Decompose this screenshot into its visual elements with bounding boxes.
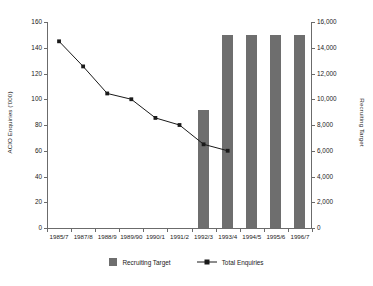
line-marker	[226, 149, 230, 153]
y-axis-left-tick-label: 0	[38, 225, 42, 231]
x-axis-tick	[71, 229, 72, 232]
line-path	[59, 41, 228, 150]
x-axis-tick	[288, 229, 289, 232]
line-marker	[129, 97, 133, 101]
line-series-total-enquiries	[47, 22, 312, 229]
x-axis-tick	[312, 229, 313, 232]
legend-item-total-enquiries: Total Enquiries	[197, 258, 264, 266]
y-axis-right-title: Recruiting Target	[356, 62, 368, 182]
y-axis-left-tick-label: 80	[35, 122, 42, 128]
x-axis-category-label: 1991/2	[170, 234, 189, 240]
y-axis-left-tick-label: 20	[35, 199, 42, 205]
y-axis-right-tick	[312, 48, 315, 49]
x-axis-category-label: 1992/3	[194, 234, 213, 240]
x-axis-tick	[216, 229, 217, 232]
y-axis-right-tick-label: 14,000	[317, 45, 337, 51]
y-axis-left-tick-label: 120	[31, 70, 42, 76]
x-axis-category-label: 1993/4	[218, 234, 237, 240]
line-marker	[202, 142, 206, 146]
legend-item-recruiting-target: Recruiting Target	[109, 258, 170, 266]
x-axis-tick	[95, 229, 96, 232]
x-axis-category-label: 1988/9	[98, 234, 117, 240]
line-markers	[57, 39, 229, 152]
chart-legend: Recruiting Target Total Enquiries	[0, 258, 373, 266]
chart-container: ACIO Enquiries ('000) Recruiting Target …	[0, 0, 373, 286]
y-axis-left-tick-label: 140	[31, 45, 42, 51]
y-axis-right-tick-label: 12,000	[317, 70, 337, 76]
y-axis-right-title-text: Recruiting Target	[359, 98, 366, 146]
y-axis-right-tick-label: 8,000	[317, 122, 333, 128]
y-axis-left-tick-label: 100	[31, 96, 42, 102]
x-axis-tick	[119, 229, 120, 232]
y-axis-right-tick	[312, 74, 315, 75]
y-axis-right-tick	[312, 125, 315, 126]
x-axis-tick	[264, 229, 265, 232]
y-axis-right-tick-label: 2,000	[317, 199, 333, 205]
x-axis-category-label: 1985/7	[50, 234, 69, 240]
x-axis-tick	[240, 229, 241, 232]
line-marker	[154, 116, 158, 120]
x-axis-tick	[167, 229, 168, 232]
y-axis-right-tick-label: 6,000	[317, 148, 333, 154]
legend-swatch-icon	[109, 258, 117, 266]
y-axis-right-tick	[312, 22, 315, 23]
x-axis-category-label: 1989/90	[120, 234, 142, 240]
line-marker	[178, 123, 182, 127]
x-axis-category-label: 1995/6	[266, 234, 285, 240]
y-axis-right-tick	[312, 177, 315, 178]
y-axis-right-tick	[312, 151, 315, 152]
line-marker	[57, 39, 61, 43]
y-axis-right-tick	[312, 99, 315, 100]
x-axis-category-label: 1996/7	[290, 234, 309, 240]
y-axis-left-title-text: ACIO Enquiries ('000)	[6, 91, 13, 153]
y-axis-right-tick-label: 16,000	[317, 19, 337, 25]
x-axis-category-label: 1990/1	[146, 234, 165, 240]
x-axis-tick	[143, 229, 144, 232]
y-axis-left-tick-label: 60	[35, 148, 42, 154]
x-axis-tick	[47, 229, 48, 232]
y-axis-left-title: ACIO Enquiries ('000)	[3, 52, 15, 192]
x-axis-category-label: 1994/5	[242, 234, 261, 240]
x-axis-category-label: 1987/8	[74, 234, 93, 240]
legend-line-icon	[197, 258, 217, 266]
line-marker	[105, 92, 109, 96]
y-axis-right-tick-label: 0	[317, 225, 321, 231]
legend-label-total-enquiries: Total Enquiries	[222, 259, 264, 266]
line-marker	[81, 65, 85, 69]
y-axis-right-tick-label: 4,000	[317, 173, 333, 179]
y-axis-right-tick	[312, 202, 315, 203]
y-axis-left-tick-label: 40	[35, 173, 42, 179]
plot-area: 020406080100120140160 02,0004,0006,0008,…	[47, 22, 312, 229]
y-axis-right-tick-label: 10,000	[317, 96, 337, 102]
legend-label-recruiting-target: Recruiting Target	[122, 259, 170, 266]
x-axis-tick	[192, 229, 193, 232]
y-axis-left-tick-label: 160	[31, 19, 42, 25]
